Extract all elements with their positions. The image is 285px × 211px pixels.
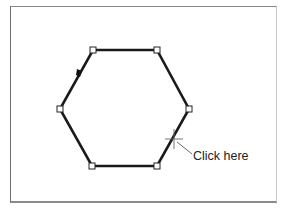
anchor-point-top-left[interactable] [90,47,96,53]
hexagon-path[interactable] [60,50,189,166]
anchor-point-left[interactable] [57,106,63,112]
anchor-point-right[interactable] [186,106,192,112]
click-here-annotation: Click here [193,149,249,163]
drawing-canvas[interactable] [0,0,285,211]
anchor-point-bottom-left[interactable] [89,163,95,169]
callout-leader-line [177,142,192,154]
anchor-points [57,47,192,169]
anchor-point-bottom-right[interactable] [154,163,160,169]
anchor-point-top-right[interactable] [154,47,160,53]
